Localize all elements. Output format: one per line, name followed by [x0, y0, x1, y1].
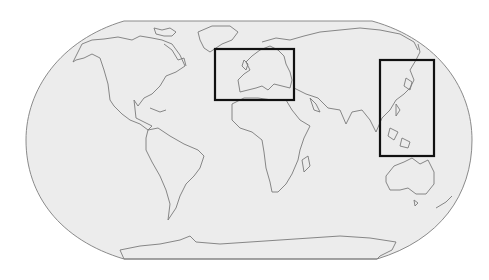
world-map: Europe and Mediterranean region East and… — [0, 0, 489, 280]
world-map-svg — [0, 0, 489, 280]
